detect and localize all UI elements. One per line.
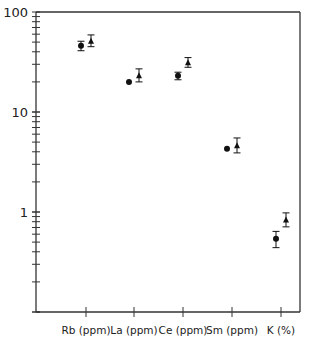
x-tick-label: Ce (ppm) [159, 324, 208, 336]
triangle-marker [283, 217, 289, 223]
data-points [78, 35, 290, 248]
circle-marker [175, 73, 181, 79]
x-axis-labels: Rb (ppm)La (ppm)Ce (ppm)Sm (ppm)K (%) [61, 324, 295, 336]
plot-frame [36, 12, 300, 312]
x-tick-label: La (ppm) [110, 324, 157, 336]
triangle-marker [88, 38, 94, 44]
triangle-marker [185, 59, 191, 65]
triangle-marker [234, 142, 240, 148]
y-axis-labels: 100101 [3, 5, 28, 220]
y-tick-label: 100 [3, 5, 28, 20]
circle-marker [273, 236, 279, 242]
circle-marker [78, 43, 84, 49]
circle-marker [224, 146, 230, 152]
y-tick-label: 10 [11, 105, 28, 120]
circle-marker [126, 79, 132, 85]
triangle-marker [136, 72, 142, 78]
x-tick-label: Rb (ppm) [61, 324, 110, 336]
element-scatter-chart: 100101 Rb (ppm)La (ppm)Ce (ppm)Sm (ppm)K… [0, 0, 311, 344]
x-tick-label: Sm (ppm) [206, 324, 258, 336]
x-tick-label: K (%) [267, 324, 295, 336]
y-tick-label: 1 [20, 205, 28, 220]
